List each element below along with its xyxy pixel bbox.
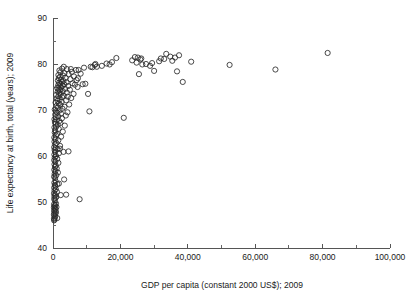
axes-group bbox=[53, 18, 390, 248]
data-point bbox=[66, 149, 71, 154]
data-point bbox=[273, 67, 278, 72]
data-point bbox=[176, 53, 181, 58]
y-tick-label: 60 bbox=[38, 151, 48, 161]
data-point bbox=[87, 109, 92, 114]
scatter-chart: 020,00040,00060,00080,000100,000 4050607… bbox=[0, 0, 419, 300]
y-axis-tick-labels: 405060708090 bbox=[38, 13, 48, 253]
data-point bbox=[136, 72, 141, 77]
x-axis-ticks bbox=[53, 244, 390, 249]
y-tick-label: 40 bbox=[38, 243, 48, 253]
y-tick-label: 80 bbox=[38, 59, 48, 69]
y-tick-label: 70 bbox=[38, 105, 48, 115]
x-tick-label: 0 bbox=[51, 252, 56, 262]
data-point bbox=[81, 65, 86, 70]
plot-area: 020,00040,00060,00080,000100,000 4050607… bbox=[0, 0, 419, 300]
data-point bbox=[227, 62, 232, 67]
data-point bbox=[121, 115, 126, 120]
data-point bbox=[85, 91, 90, 96]
x-tick-label: 20,000 bbox=[107, 252, 133, 262]
data-point bbox=[114, 55, 119, 60]
y-tick-label: 90 bbox=[38, 13, 48, 23]
x-tick-label: 60,000 bbox=[242, 252, 268, 262]
data-point bbox=[189, 59, 194, 64]
data-point bbox=[180, 79, 185, 84]
data-points bbox=[51, 50, 330, 223]
data-point bbox=[325, 50, 330, 55]
data-point bbox=[130, 58, 135, 63]
data-point bbox=[174, 69, 179, 74]
x-tick-label: 100,000 bbox=[375, 252, 406, 262]
x-axis-tick-labels: 020,00040,00060,00080,000100,000 bbox=[51, 252, 406, 262]
data-point bbox=[62, 177, 67, 182]
y-tick-label: 50 bbox=[38, 197, 48, 207]
x-axis-title: GDP per capita (constant 2000 US$); 2009 bbox=[141, 280, 303, 290]
data-point bbox=[77, 197, 82, 202]
y-axis-title: Life expectancy at birth, total (years);… bbox=[5, 52, 15, 213]
x-tick-label: 40,000 bbox=[175, 252, 201, 262]
data-point bbox=[104, 61, 109, 66]
data-point bbox=[64, 192, 69, 197]
data-point bbox=[68, 77, 73, 82]
data-point bbox=[152, 68, 157, 73]
data-point bbox=[164, 51, 169, 56]
x-tick-label: 80,000 bbox=[310, 252, 336, 262]
